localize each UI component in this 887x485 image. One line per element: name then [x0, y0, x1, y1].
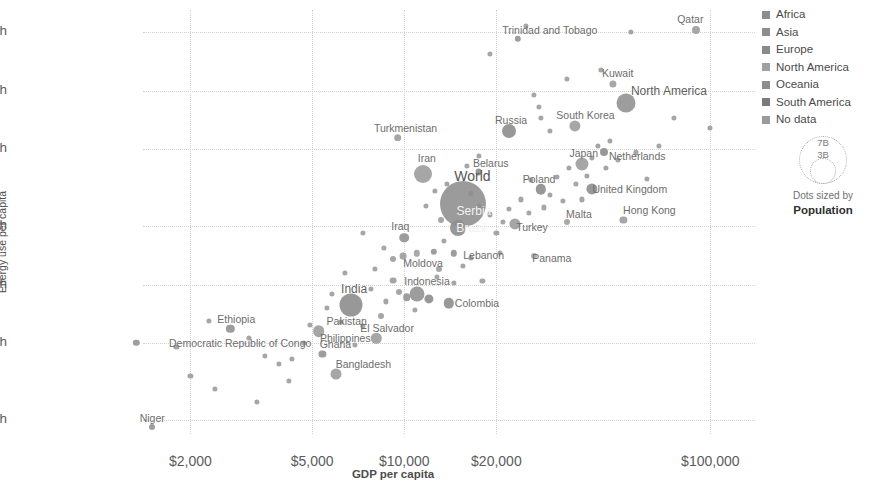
data-point[interactable]	[609, 81, 616, 88]
data-point-unlabeled[interactable]	[412, 307, 417, 312]
data-point-unlabeled[interactable]	[188, 373, 193, 378]
data-point-unlabeled[interactable]	[480, 278, 485, 283]
data-point[interactable]	[444, 298, 454, 308]
legend-item-no-data[interactable]: No data	[762, 111, 884, 129]
data-point[interactable]	[586, 184, 597, 195]
data-point-unlabeled[interactable]	[548, 192, 553, 197]
data-point[interactable]	[414, 250, 420, 256]
data-point-unlabeled[interactable]	[424, 295, 433, 304]
data-point-unlabeled[interactable]	[390, 277, 397, 284]
data-point[interactable]	[133, 340, 139, 346]
data-point-unlabeled[interactable]	[338, 320, 343, 325]
data-point-unlabeled[interactable]	[628, 30, 633, 35]
data-point[interactable]	[536, 184, 546, 194]
data-point[interactable]	[319, 350, 326, 357]
data-point-unlabeled[interactable]	[596, 143, 601, 148]
data-point-unlabeled[interactable]	[633, 150, 638, 155]
data-point-unlabeled[interactable]	[526, 210, 531, 215]
data-point[interactable]	[313, 326, 325, 338]
data-point-unlabeled[interactable]	[548, 128, 553, 133]
data-point-unlabeled[interactable]	[262, 353, 267, 358]
data-point-unlabeled[interactable]	[325, 305, 330, 310]
data-point-unlabeled[interactable]	[541, 205, 546, 210]
data-point[interactable]	[515, 35, 521, 41]
data-point-unlabeled[interactable]	[246, 336, 251, 341]
data-point-unlabeled[interactable]	[329, 291, 334, 296]
data-point-unlabeled[interactable]	[524, 23, 529, 28]
data-point-unlabeled[interactable]	[396, 289, 402, 295]
data-point-unlabeled[interactable]	[487, 212, 492, 217]
data-point-unlabeled[interactable]	[564, 76, 569, 81]
data-point[interactable]	[331, 369, 342, 380]
data-point-unlabeled[interactable]	[286, 378, 291, 383]
data-point[interactable]	[575, 157, 588, 170]
data-point-unlabeled[interactable]	[589, 155, 594, 160]
data-point-unlabeled[interactable]	[435, 274, 440, 279]
data-point[interactable]	[378, 313, 384, 319]
data-point[interactable]	[620, 217, 627, 224]
data-point-unlabeled[interactable]	[554, 174, 559, 179]
legend-item-europe[interactable]: Europe	[762, 41, 884, 59]
data-point-unlabeled[interactable]	[603, 165, 608, 170]
data-point-unlabeled[interactable]	[574, 181, 579, 186]
data-point[interactable]	[616, 94, 635, 113]
data-point-unlabeled[interactable]	[531, 92, 536, 97]
data-point-unlabeled[interactable]	[560, 198, 565, 203]
data-point[interactable]	[400, 233, 410, 243]
data-point-unlabeled[interactable]	[432, 188, 437, 193]
data-point-unlabeled[interactable]	[644, 176, 649, 181]
data-point-unlabeled[interactable]	[342, 270, 347, 275]
data-point-unlabeled[interactable]	[656, 143, 661, 148]
data-point[interactable]	[569, 120, 580, 131]
data-point[interactable]	[509, 219, 520, 230]
data-point[interactable]	[340, 293, 363, 316]
data-point[interactable]	[440, 181, 486, 227]
data-point-unlabeled[interactable]	[436, 266, 442, 272]
data-point-unlabeled[interactable]	[497, 251, 502, 256]
data-point-unlabeled[interactable]	[424, 203, 429, 208]
data-point-unlabeled[interactable]	[500, 220, 505, 225]
data-point-unlabeled[interactable]	[566, 165, 571, 170]
data-point-unlabeled[interactable]	[584, 173, 589, 178]
legend-item-south-america[interactable]: South America	[762, 94, 884, 112]
data-point[interactable]	[564, 219, 570, 225]
data-point-unlabeled[interactable]	[399, 253, 406, 260]
data-point-unlabeled[interactable]	[301, 341, 306, 346]
data-point-unlabeled[interactable]	[539, 116, 544, 121]
data-point-unlabeled[interactable]	[671, 116, 676, 121]
data-point[interactable]	[394, 134, 402, 142]
data-point-unlabeled[interactable]	[382, 245, 387, 250]
data-point[interactable]	[149, 424, 155, 430]
data-point-unlabeled[interactable]	[206, 318, 211, 323]
data-point[interactable]	[531, 253, 537, 259]
data-point[interactable]	[692, 26, 700, 34]
data-point[interactable]	[414, 165, 432, 183]
data-point-unlabeled[interactable]	[352, 342, 357, 347]
data-point-unlabeled[interactable]	[494, 230, 499, 235]
data-point-unlabeled[interactable]	[529, 178, 534, 183]
data-point-unlabeled[interactable]	[536, 105, 541, 110]
data-point-unlabeled[interactable]	[518, 197, 523, 202]
legend-item-africa[interactable]: Africa	[762, 6, 884, 24]
data-point[interactable]	[502, 124, 516, 138]
data-point[interactable]	[450, 250, 456, 256]
legend-item-asia[interactable]: Asia	[762, 24, 884, 42]
data-point-unlabeled[interactable]	[616, 157, 621, 162]
data-point-unlabeled[interactable]	[579, 197, 584, 202]
legend-item-north-america[interactable]: North America	[762, 59, 884, 77]
data-point-unlabeled[interactable]	[460, 263, 465, 268]
data-point-unlabeled[interactable]	[372, 267, 377, 272]
data-point-unlabeled[interactable]	[442, 238, 447, 243]
data-point[interactable]	[371, 333, 381, 343]
data-point-unlabeled[interactable]	[607, 138, 612, 143]
data-point[interactable]	[475, 169, 482, 176]
data-point[interactable]	[410, 286, 425, 301]
data-point-unlabeled[interactable]	[487, 51, 492, 56]
data-point-unlabeled[interactable]	[277, 361, 282, 366]
data-point-unlabeled[interactable]	[468, 255, 473, 260]
data-point-unlabeled[interactable]	[476, 153, 481, 158]
data-point-unlabeled[interactable]	[464, 163, 469, 168]
data-point[interactable]	[226, 325, 234, 333]
data-point[interactable]	[600, 148, 608, 156]
data-point-unlabeled[interactable]	[360, 230, 365, 235]
